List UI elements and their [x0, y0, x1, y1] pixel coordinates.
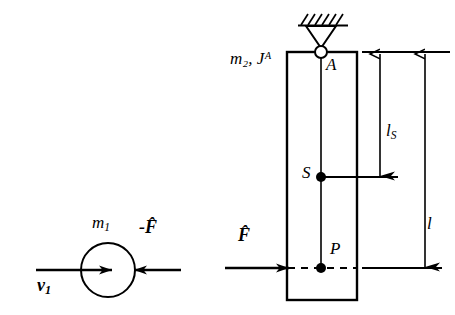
label-l: l	[427, 215, 432, 232]
ground-hatching	[298, 14, 348, 26]
label-A: A	[326, 56, 336, 73]
label-f-hat: F̂	[238, 226, 250, 244]
label-m1: m1	[92, 214, 110, 234]
label-m2-JA: m₂, Jᴬ	[230, 50, 271, 67]
impacting-mass-group	[36, 243, 181, 297]
label-v1: v1	[37, 276, 51, 297]
label-S: S	[302, 164, 311, 181]
figure-canvas	[0, 0, 455, 315]
pin-support-triangle	[306, 26, 336, 48]
label-P: P	[330, 240, 340, 257]
dimension-group	[325, 52, 450, 268]
label-minus-f-hat: -F̂	[139, 218, 157, 236]
mechanics-figure: m1 -F̂ v1 m₂, Jᴬ A S P lS l F̂	[0, 0, 455, 315]
label-lS: lS	[386, 122, 397, 142]
center-of-mass-point	[316, 172, 326, 182]
